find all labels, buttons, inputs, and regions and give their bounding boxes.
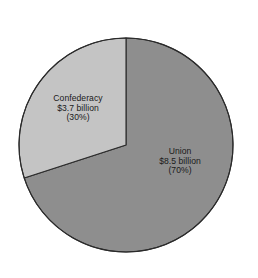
pie-chart-canvas [0,0,258,278]
pie-label-union: Union $8.5 billion (70%) [122,147,238,176]
pie-chart: Confederacy $3.7 billion (30%) Union $8.… [0,0,258,278]
pie-label-confederacy: Confederacy $3.7 billion (30%) [20,94,136,123]
union-label-percent: (70%) [122,166,238,176]
confederacy-label-percent: (30%) [20,113,136,123]
